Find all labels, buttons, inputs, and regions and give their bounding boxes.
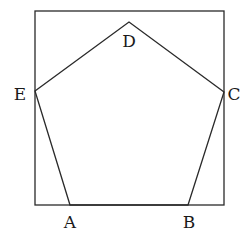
vertex-label-b: B bbox=[183, 212, 196, 232]
vertex-label-c: C bbox=[227, 84, 240, 104]
vertex-label-d: D bbox=[122, 31, 136, 51]
vertex-label-e: E bbox=[14, 84, 26, 104]
vertex-label-a: A bbox=[63, 212, 77, 232]
geometry-diagram: A B C D E bbox=[0, 0, 247, 237]
